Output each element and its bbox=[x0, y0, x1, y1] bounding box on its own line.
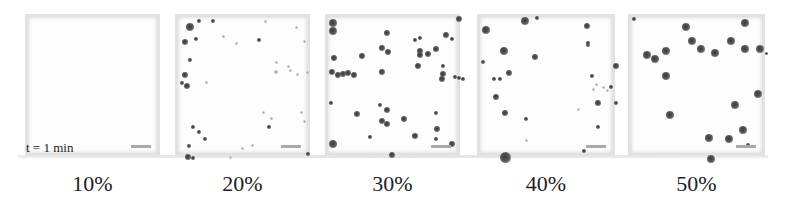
particle bbox=[614, 101, 619, 106]
concentration-label: 50% bbox=[627, 171, 767, 197]
particle bbox=[697, 45, 705, 53]
particle bbox=[595, 100, 601, 106]
particle bbox=[329, 19, 337, 27]
particle bbox=[682, 23, 690, 31]
particle bbox=[211, 19, 216, 24]
particle bbox=[535, 16, 540, 21]
particle bbox=[197, 130, 202, 135]
particle bbox=[351, 72, 357, 78]
particle bbox=[643, 51, 651, 59]
concentration-label: 10% bbox=[23, 171, 163, 197]
particle bbox=[502, 110, 508, 116]
particle bbox=[303, 120, 306, 123]
particle bbox=[731, 101, 739, 109]
particle bbox=[707, 155, 715, 163]
particle bbox=[439, 76, 445, 82]
particle bbox=[289, 69, 292, 72]
particle bbox=[184, 83, 190, 89]
particle bbox=[359, 53, 365, 59]
particle bbox=[262, 111, 265, 114]
particle bbox=[241, 147, 244, 150]
particle bbox=[754, 90, 762, 98]
scale-bar bbox=[431, 145, 451, 148]
particle bbox=[525, 139, 528, 142]
particle bbox=[433, 46, 439, 52]
particle bbox=[300, 111, 303, 114]
particle bbox=[500, 152, 511, 163]
particle bbox=[662, 47, 670, 55]
particle bbox=[306, 71, 309, 74]
particle bbox=[602, 86, 605, 89]
particle bbox=[711, 49, 719, 57]
particle bbox=[613, 63, 619, 69]
particle bbox=[264, 20, 267, 23]
micrograph-panel bbox=[477, 14, 615, 156]
particle bbox=[329, 27, 337, 35]
particle bbox=[741, 45, 749, 53]
particle bbox=[592, 88, 595, 91]
concentration-label: 40% bbox=[476, 171, 616, 197]
particle bbox=[384, 107, 390, 113]
particle bbox=[651, 55, 659, 63]
particle bbox=[412, 133, 418, 139]
particle bbox=[188, 58, 193, 63]
particle bbox=[606, 89, 609, 92]
particle bbox=[296, 73, 299, 76]
particle bbox=[229, 156, 232, 159]
time-label: t = 1 min bbox=[26, 140, 73, 156]
particle bbox=[186, 23, 194, 31]
particle bbox=[187, 144, 192, 149]
particle bbox=[662, 72, 670, 80]
particle bbox=[384, 30, 390, 36]
particle bbox=[329, 101, 334, 106]
particle bbox=[434, 111, 439, 116]
micrograph-panel bbox=[175, 14, 310, 156]
particle bbox=[434, 126, 440, 132]
particle bbox=[295, 26, 298, 29]
particle bbox=[274, 70, 279, 75]
particle bbox=[498, 77, 503, 82]
particle bbox=[741, 19, 749, 27]
particle bbox=[267, 125, 272, 130]
particle bbox=[756, 45, 764, 53]
particle bbox=[590, 74, 595, 79]
particle bbox=[413, 38, 418, 43]
particle bbox=[194, 37, 199, 42]
particle bbox=[596, 125, 601, 130]
particle bbox=[688, 37, 696, 45]
particle bbox=[582, 149, 587, 154]
particle bbox=[331, 55, 337, 61]
particle bbox=[595, 83, 598, 86]
particle bbox=[739, 126, 747, 134]
particle bbox=[577, 108, 580, 111]
particle bbox=[434, 137, 439, 142]
particle bbox=[500, 47, 508, 55]
particle bbox=[532, 54, 538, 60]
particle bbox=[632, 17, 637, 22]
particle bbox=[441, 64, 446, 69]
particle bbox=[378, 103, 383, 108]
particle bbox=[666, 111, 674, 119]
particle bbox=[415, 63, 421, 69]
particle bbox=[524, 117, 529, 122]
particle bbox=[354, 111, 360, 117]
particle bbox=[222, 35, 225, 38]
particle bbox=[251, 144, 254, 147]
particle bbox=[197, 19, 202, 24]
particle bbox=[493, 94, 499, 100]
particle bbox=[765, 52, 768, 55]
particle bbox=[492, 77, 497, 82]
particle bbox=[329, 140, 337, 148]
particle bbox=[506, 70, 512, 76]
scale-bar bbox=[131, 145, 151, 148]
particle bbox=[417, 52, 423, 58]
micrograph-panel bbox=[325, 14, 460, 156]
micrograph-panel bbox=[25, 14, 160, 156]
particle bbox=[303, 40, 306, 43]
particle bbox=[270, 117, 273, 120]
particle bbox=[182, 72, 188, 78]
particle bbox=[450, 37, 455, 42]
particle bbox=[461, 77, 466, 82]
particle bbox=[191, 156, 196, 161]
particle bbox=[456, 16, 462, 22]
